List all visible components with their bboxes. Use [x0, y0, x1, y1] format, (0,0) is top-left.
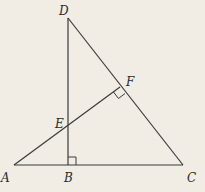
diagram-canvas: D F E A B C — [0, 0, 205, 192]
right-angle-marker-B — [68, 157, 76, 165]
label-E: E — [54, 117, 64, 131]
segment-AF — [14, 87, 120, 165]
label-B: B — [63, 171, 73, 185]
geometry-diagram: D F E A B C — [0, 0, 205, 192]
segment-DC — [68, 18, 183, 165]
right-angle-marker-F — [114, 92, 126, 99]
label-C: C — [187, 171, 196, 185]
label-F: F — [125, 75, 135, 89]
label-A: A — [0, 171, 10, 185]
label-D: D — [58, 4, 69, 18]
